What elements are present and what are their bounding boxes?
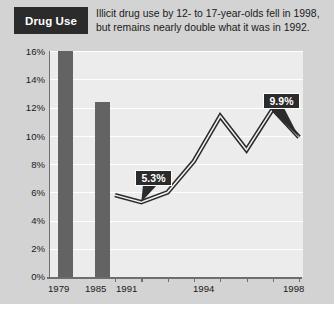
chart-figure: Drug Use Illicit drug use by 12- to 17-y… xyxy=(0,0,334,314)
callout-pointer-9-9 xyxy=(269,108,299,137)
callout-9-9: 9.9% xyxy=(263,93,300,109)
callout-pointers xyxy=(0,0,334,314)
callout-pointer-5-3 xyxy=(141,185,157,202)
callout-5-3: 5.3% xyxy=(135,170,172,186)
